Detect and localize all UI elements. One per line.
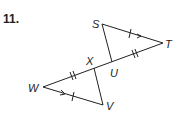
- label-V: V: [106, 100, 115, 112]
- label-X: X: [85, 55, 94, 67]
- segment-SU: [102, 24, 112, 62]
- label-S: S: [92, 18, 100, 30]
- segment-WT: [43, 43, 163, 87]
- geometry-diagram: S T W V X U: [0, 0, 177, 126]
- label-U: U: [110, 67, 118, 79]
- segment-XV: [94, 68, 103, 105]
- segment-ST: [102, 24, 163, 43]
- tick-mark-ST: [129, 29, 131, 38]
- label-W: W: [28, 82, 40, 94]
- label-T: T: [165, 38, 173, 50]
